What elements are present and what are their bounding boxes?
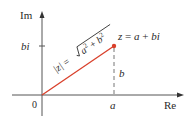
y-axis-label: Im (20, 9, 33, 21)
point-z (112, 44, 116, 48)
b-segment-label: b (119, 67, 125, 79)
a-tick-label: a (110, 99, 116, 111)
svg-text:|z| =: |z| = (51, 56, 72, 75)
real-axis-arrow-icon (177, 93, 184, 98)
diagram-svg: Im Re 0 bi a b z = a + bi |z| = a2 + b2 (0, 0, 187, 119)
point-label-bi: bi (151, 30, 160, 42)
svg-text:a2 + b2: a2 + b2 (78, 31, 108, 57)
origin-label: 0 (32, 99, 37, 110)
complex-plane-diagram: Im Re 0 bi a b z = a + bi |z| = a2 + b2 (0, 0, 187, 119)
point-label-eq: = (122, 30, 134, 42)
modulus-vector (42, 46, 114, 95)
bi-tick-label: bi (21, 40, 30, 52)
point-label-plus: + (140, 30, 152, 42)
x-axis-label: Re (164, 99, 176, 111)
point-label: z = a + bi (117, 30, 160, 42)
imaginary-axis-arrow-icon (40, 11, 45, 18)
